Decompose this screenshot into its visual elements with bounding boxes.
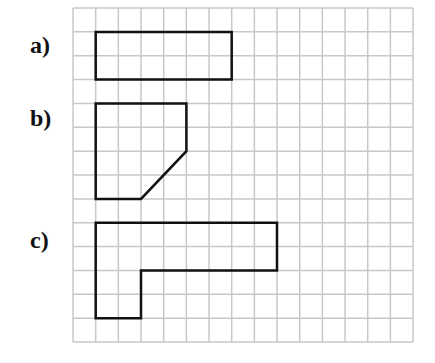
- grid-lines: [73, 8, 413, 342]
- label-b: b): [30, 106, 51, 130]
- label-c: c): [30, 228, 49, 252]
- label-a: a): [30, 33, 50, 57]
- grid-diagram: [0, 0, 435, 363]
